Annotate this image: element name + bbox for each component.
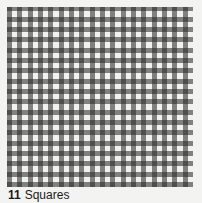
figure-number: 11 bbox=[8, 188, 21, 202]
figure-label: Squares bbox=[25, 188, 70, 202]
figure-caption: 11Squares bbox=[8, 188, 69, 202]
gingham-pattern-swatch bbox=[7, 7, 193, 187]
